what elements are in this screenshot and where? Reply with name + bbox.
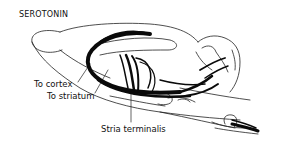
serotonin-fiber-bundles xyxy=(88,32,258,131)
label-to-striatum: To striatum xyxy=(47,91,94,101)
serotonin-pathway-diagram: SEROTONIN To cortex To striatum Stria te… xyxy=(0,0,281,148)
diagram-title: SEROTONIN xyxy=(19,10,68,19)
label-to-cortex: To cortex xyxy=(34,79,72,89)
label-stria-terminalis: Stria terminalis xyxy=(101,124,166,134)
